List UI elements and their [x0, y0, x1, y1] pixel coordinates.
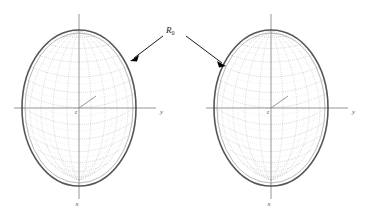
- r0-label-subscript: 0: [172, 30, 175, 36]
- ellipsoid-figure: y x z: [0, 0, 384, 213]
